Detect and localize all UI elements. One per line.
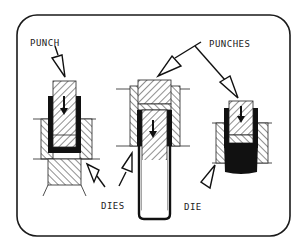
- punch-die-diagram: PUNCH PUNCHES DIES DIE: [0, 0, 306, 251]
- label-punch: PUNCH: [30, 38, 60, 48]
- label-die: DIE: [184, 202, 202, 212]
- punch-pointer-arrow: [52, 46, 65, 77]
- label-punches: PUNCHES: [209, 39, 250, 49]
- label-dies: DIES: [101, 201, 125, 211]
- center-assembly: [116, 80, 190, 219]
- dies-pointer-arrows: [87, 153, 132, 187]
- right-assembly: [212, 101, 272, 174]
- left-assembly: [33, 81, 100, 196]
- die-pointer-arrow: [201, 165, 215, 188]
